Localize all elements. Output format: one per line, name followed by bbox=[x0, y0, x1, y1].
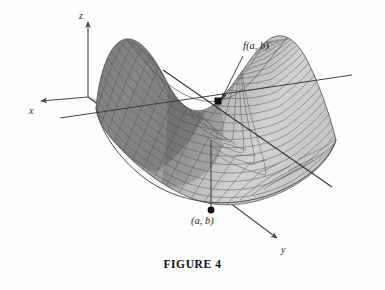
x-axis bbox=[41, 97, 88, 101]
x-axis-label: x bbox=[29, 106, 33, 116]
y-axis-label: y bbox=[281, 245, 285, 255]
domain-point-label: (a, b) bbox=[191, 216, 214, 227]
z-axis-label: z bbox=[79, 11, 83, 21]
saddle-surface bbox=[92, 36, 340, 206]
saddle-point-marker bbox=[215, 98, 222, 105]
surface-point-label: f(a, b) bbox=[243, 41, 269, 52]
domain-point-marker bbox=[208, 207, 215, 214]
figure-caption: FIGURE 4 bbox=[0, 258, 385, 270]
saddle-surface-figure bbox=[0, 0, 385, 290]
figure-container: z x y f(a, b) (a, b) FIGURE 4 bbox=[0, 0, 385, 290]
